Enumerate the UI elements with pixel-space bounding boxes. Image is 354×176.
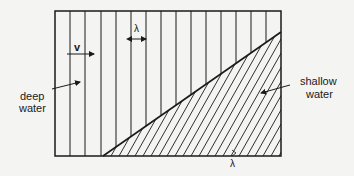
deep-water-wavefronts — [70, 11, 266, 156]
tank-frame — [55, 11, 281, 156]
depth-boundary-line — [103, 32, 281, 156]
wavelength-label-bottom: λ — [230, 158, 235, 170]
shallow-water-label-line2: water — [306, 88, 333, 100]
velocity-label: v — [74, 41, 80, 53]
deep-water-label-line2: water — [19, 102, 46, 114]
wave-refraction-diagram — [0, 0, 354, 176]
deep-water-pointer — [52, 82, 80, 89]
deep-water-label-line1: deep — [20, 90, 44, 102]
wavelength-label-top: λ — [134, 23, 139, 35]
shallow-water-label-line1: shallow — [300, 75, 337, 87]
